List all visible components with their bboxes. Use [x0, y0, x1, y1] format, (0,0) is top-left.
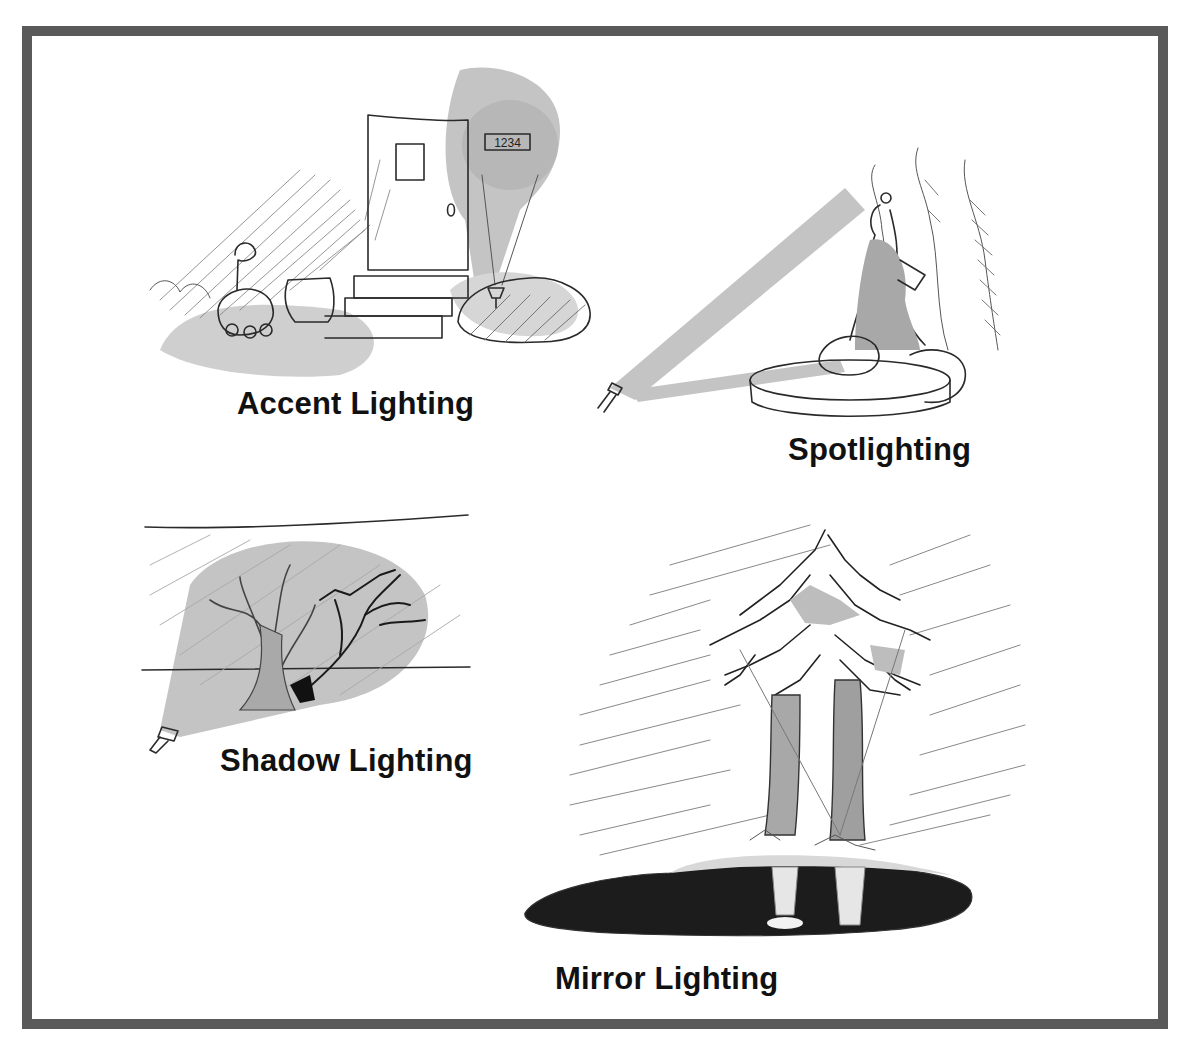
panel-shadow-lighting: Shadow Lighting: [140, 505, 520, 795]
spotlighting-sketch: [590, 140, 1010, 430]
accent-lighting-sketch: 1234: [140, 60, 600, 380]
caption-spotlighting: Spotlighting: [788, 432, 971, 468]
house-number: 1234: [494, 136, 521, 150]
panel-mirror-lighting: Mirror Lighting: [510, 505, 1070, 1005]
caption-accent-lighting: Accent Lighting: [237, 386, 474, 422]
caption-shadow-lighting: Shadow Lighting: [220, 743, 473, 779]
panel-spotlighting: Spotlighting: [590, 140, 1010, 480]
caption-mirror-lighting: Mirror Lighting: [555, 961, 778, 997]
mirror-lighting-sketch: [510, 505, 1060, 945]
shadow-lighting-sketch: [140, 505, 480, 765]
panel-accent-lighting: 1234 Accent Lighting: [140, 60, 600, 430]
